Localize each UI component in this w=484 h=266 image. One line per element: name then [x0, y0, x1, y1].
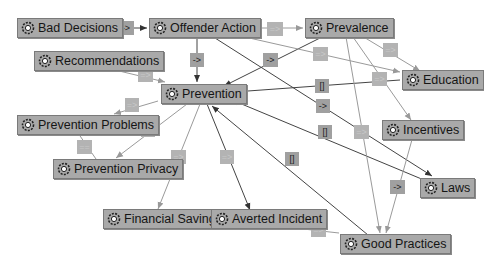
edge-label-prevalence-to-good: =>: [354, 125, 369, 139]
edge-label-offender-to-prevention: ->: [190, 53, 204, 67]
gear-flower-icon: [344, 237, 358, 251]
node-label: Education: [423, 73, 479, 87]
edge-label-incentives-to-good: ->: [390, 180, 405, 194]
node-averted-incident[interactable]: Averted Incident: [211, 209, 327, 229]
gear-flower-icon: [38, 54, 52, 68]
edge-label-prevention-to-averted: =>: [220, 150, 234, 164]
edge-label-prevalence-to-prevention: ->: [263, 53, 278, 67]
gear-flower-icon: [57, 162, 71, 176]
node-education[interactable]: Education: [402, 70, 484, 90]
node-prevalence[interactable]: Prevalence: [305, 18, 394, 38]
node-prevention-problems[interactable]: Prevention Problems: [17, 115, 159, 135]
edge-label-offender-to-prevalence: =>: [267, 22, 283, 36]
gear-flower-icon: [424, 181, 438, 195]
node-offender-action[interactable]: Offender Action: [149, 18, 261, 38]
gear-flower-icon: [21, 21, 35, 35]
node-label: Prevention Problems: [38, 118, 154, 132]
node-label: Laws: [441, 181, 470, 195]
node-label: Bad Decisions: [38, 21, 118, 35]
node-prevention[interactable]: Prevention: [161, 84, 247, 104]
edge-label-good-to-prevention: []: [285, 152, 299, 166]
node-label: Offender Action: [170, 21, 256, 35]
gear-flower-icon: [153, 21, 167, 35]
node-good-practices[interactable]: Good Practices: [340, 234, 451, 254]
edge-label-offender-to-laws: ->: [316, 99, 330, 113]
node-financial-savings[interactable]: Financial Savings: [103, 209, 227, 229]
gear-flower-icon: [386, 123, 400, 137]
edge-label-prevalence-to-education: =>: [383, 43, 398, 57]
node-label: Incentives: [403, 123, 459, 137]
node-bad-decisions[interactable]: Bad Decisions: [17, 18, 123, 38]
node-laws[interactable]: Laws: [420, 178, 475, 198]
gear-flower-icon: [107, 212, 121, 226]
node-label: Averted Incident: [232, 212, 322, 226]
edge-label-education-to-prevention: []: [315, 79, 329, 93]
edge-label-problems-privacy: ==: [77, 140, 92, 154]
edge-label-offender-to-education: =>: [313, 47, 328, 61]
node-prevention-privacy[interactable]: Prevention Privacy: [53, 159, 183, 179]
node-label: Financial Savings: [124, 212, 222, 226]
node-label: Prevalence: [326, 21, 389, 35]
gear-flower-icon: [309, 21, 323, 35]
gear-flower-icon: [165, 87, 179, 101]
node-incentives[interactable]: Incentives: [382, 120, 464, 140]
node-label: Good Practices: [361, 237, 446, 251]
edge-label-prevention-to-problems: =>: [125, 98, 139, 112]
node-recommendations[interactable]: Recommendations: [34, 51, 164, 71]
gear-flower-icon: [215, 212, 229, 226]
gear-flower-icon: [21, 118, 35, 132]
gear-flower-icon: [406, 73, 420, 87]
edge-label-laws-to-prevention: []: [318, 125, 332, 139]
node-label: Prevention Privacy: [74, 162, 178, 176]
edge-label-prevalence-to-incentives: =>: [372, 72, 387, 86]
node-label: Prevention: [182, 87, 242, 101]
node-label: Recommendations: [55, 54, 159, 68]
